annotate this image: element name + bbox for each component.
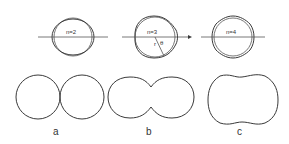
- waisted-shape: [208, 75, 278, 124]
- caption-b: b: [146, 126, 152, 137]
- mode-label: n=2: [66, 29, 77, 35]
- shape-a: a: [16, 75, 104, 137]
- mode-label: n=3: [147, 29, 158, 35]
- mode-n3: n=3 r θ: [122, 16, 192, 58]
- caption-c: c: [237, 126, 242, 137]
- caption-a: a: [53, 126, 59, 137]
- peanut-shape: [108, 77, 194, 118]
- mode-n4: n=4: [201, 16, 265, 58]
- radius-label: r: [154, 41, 156, 47]
- mode-n2: n=2: [38, 18, 108, 56]
- right-sphere: [60, 75, 104, 119]
- angle-label: θ: [160, 40, 164, 46]
- shape-b: b: [108, 77, 194, 137]
- oscillation-modes-diagram: n=2 n=3 r θ n=4 a b c: [0, 0, 289, 144]
- mode-label: n=4: [226, 29, 237, 35]
- left-sphere: [16, 75, 60, 119]
- shape-c: c: [208, 75, 278, 137]
- arrow-head-icon: [188, 35, 192, 39]
